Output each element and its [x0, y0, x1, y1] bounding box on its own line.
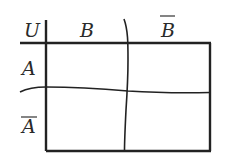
curved-vertical-divider: [124, 19, 128, 151]
wavy-horizontal-divider: [20, 87, 210, 93]
column-label-b-complement: B: [160, 19, 175, 41]
row-label-a: A: [20, 57, 36, 79]
row-label-a-complement: A: [20, 115, 36, 137]
column-label-b: B: [79, 19, 94, 41]
universe-label: U: [24, 19, 41, 41]
venn-table-diagram: U B B A A: [0, 0, 240, 159]
